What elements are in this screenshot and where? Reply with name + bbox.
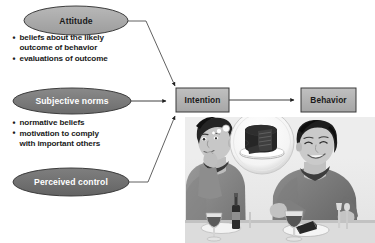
node-behavior[interactable]: Behavior: [301, 88, 356, 112]
node-intention-label: Intention: [185, 95, 221, 105]
node-perceived-control-label: Perceived control: [34, 177, 108, 187]
node-attitude[interactable]: Attitude: [24, 6, 128, 35]
node-behavior-label: Behavior: [310, 95, 347, 105]
bullet-item: beliefs about the likely outcome of beha…: [12, 33, 152, 54]
node-perceived-control[interactable]: Perceived control: [13, 168, 129, 196]
diagram-canvas: Attitude Subjective norms Perceived cont…: [0, 0, 375, 243]
bullet-item: normative beliefs: [12, 118, 152, 128]
node-attitude-label: Attitude: [59, 16, 92, 26]
node-intention[interactable]: Intention: [176, 88, 229, 112]
attitude-bullet-list: beliefs about the likely outcome of beha…: [12, 33, 152, 65]
node-subjective-norms-label: Subjective norms: [35, 96, 108, 106]
bullet-item: motivation to comply with important othe…: [12, 129, 152, 150]
bullet-item: evaluations of outcome: [12, 54, 152, 64]
node-subjective-norms[interactable]: Subjective norms: [13, 88, 131, 114]
subjective-norms-bullet-list: normative beliefs motivation to comply w…: [12, 118, 152, 150]
